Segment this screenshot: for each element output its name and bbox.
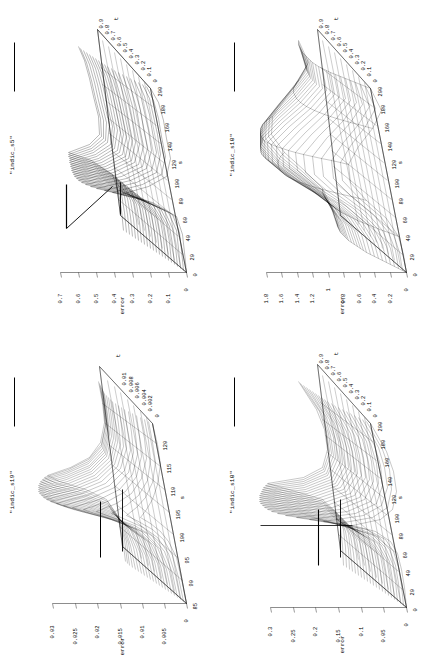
- x-tick: 0: [192, 273, 198, 276]
- z-tick: 1: [325, 288, 331, 291]
- x-tick: 115: [166, 463, 172, 473]
- ridge-highlight: [66, 182, 120, 228]
- y-tick: 0.4: [128, 48, 134, 58]
- y-tick: 0.3: [134, 54, 140, 64]
- plot-rotated-content: "indic_s10" error s t 0 0.2 0.4 0.6 0.8 …: [220, 0, 439, 334]
- x-tick: 80: [178, 198, 184, 204]
- z-tick: 0.005: [161, 628, 167, 644]
- y-tick: 0.2: [360, 395, 366, 405]
- x-tick: 20: [409, 589, 415, 595]
- x-tick: 120: [171, 159, 177, 169]
- x-tick: 200: [377, 421, 383, 431]
- plot-rotated-content: "indic_s10" error s t 0 0.05 0.1 0.15 0.…: [220, 335, 439, 669]
- y-tick: 0.9: [318, 353, 324, 363]
- z-tick: 0.03: [49, 625, 55, 638]
- z-tick: 1.8: [263, 293, 269, 303]
- x-tick: 180: [160, 104, 166, 114]
- y-tick: 0.01: [121, 372, 127, 385]
- plot-rotated-content: "indic_s19" error s t 0 0.005 0.01 0.015…: [0, 335, 219, 669]
- x-tick: 80: [398, 198, 404, 204]
- x-tick: 140: [167, 141, 173, 151]
- z-tick: 0.3: [267, 626, 273, 636]
- x-tick: 40: [405, 235, 411, 241]
- z-tick: 0: [183, 619, 189, 622]
- x-tick: 80: [398, 533, 404, 539]
- y-tick: 0.2: [360, 60, 366, 70]
- surface-wireframe: [259, 381, 406, 607]
- y-axis-label: t: [112, 16, 119, 20]
- y-tick: 0.1: [146, 66, 152, 76]
- plot-title: "indic_s10": [228, 470, 235, 513]
- z-tick: 0.4: [371, 293, 377, 303]
- y-tick: 0.9: [318, 18, 324, 28]
- x-axis-label: s: [178, 495, 185, 499]
- y-tick: 0.004: [141, 389, 147, 405]
- x-tick: 20: [409, 254, 415, 260]
- x-tick: 60: [402, 217, 408, 223]
- z-tick: 0.6: [75, 293, 81, 303]
- z-tick: 1.2: [309, 293, 315, 303]
- y-tick: 0.6: [336, 36, 342, 46]
- plot-title: "indic_s10": [228, 133, 235, 176]
- x-tick: 160: [384, 122, 390, 132]
- z-tick: 0.1: [165, 293, 171, 303]
- y-tick: 0: [154, 414, 160, 417]
- y-tick: 0.002: [147, 395, 153, 411]
- figure-canvas: "indic_s5" error s t 0 0.1 0.2 0.3 0.4 0…: [0, 0, 439, 669]
- x-tick: 95: [184, 557, 190, 563]
- z-tick: 0.025: [72, 628, 78, 644]
- y-tick: 0.5: [342, 42, 348, 52]
- x-tick: 180: [380, 439, 386, 449]
- z-axis-label: error: [118, 296, 125, 314]
- x-tick: 140: [387, 476, 393, 486]
- z-tick: 0.6: [356, 293, 362, 303]
- x-tick: 100: [394, 513, 400, 523]
- z-tick: 0.015: [117, 628, 123, 644]
- x-tick: 180: [380, 104, 386, 114]
- z-tick: 0.15: [335, 629, 341, 642]
- x-tick: 60: [402, 552, 408, 558]
- y-tick: 0.7: [110, 30, 116, 40]
- y-tick: 0.4: [348, 383, 354, 393]
- x-tick: 120: [391, 159, 397, 169]
- y-tick: 0: [372, 414, 378, 417]
- z-tick: 1.6: [278, 293, 284, 303]
- y-tick: 0.5: [122, 42, 128, 52]
- z-tick: 1.4: [294, 293, 300, 303]
- y-axis-label: t: [332, 16, 339, 20]
- x-tick: 90: [188, 580, 194, 586]
- x-tick: 20: [189, 254, 195, 260]
- y-tick: 0.5: [342, 377, 348, 387]
- x-tick: 200: [377, 86, 383, 96]
- y-tick: 0.1: [366, 66, 372, 76]
- x-tick: 0: [412, 273, 418, 276]
- x-tick: 120: [391, 494, 397, 504]
- y-tick: 0.6: [336, 371, 342, 381]
- z-axis-ticks: [60, 272, 187, 277]
- y-tick: 0.2: [140, 60, 146, 70]
- plot-panel-indic-s10-spike: "indic_s10" error s t 0 0.05 0.1 0.15 0.…: [220, 335, 439, 669]
- y-tick: 0.008: [128, 376, 134, 392]
- x-tick: 110: [170, 486, 176, 496]
- x-tick: 100: [394, 178, 400, 188]
- z-tick: 0.2: [147, 293, 153, 303]
- y-tick: 0: [152, 79, 158, 82]
- y-tick: 0.8: [324, 359, 330, 369]
- plot-frame: [266, 29, 406, 272]
- z-tick: 0: [403, 288, 409, 291]
- surface-plot-svg: [220, 335, 439, 669]
- y-tick: 0.6: [116, 36, 122, 46]
- y-tick: 0.4: [348, 48, 354, 58]
- surface-wireframe: [38, 381, 186, 603]
- surface-plot-svg: [0, 0, 219, 334]
- surface-plot-svg: [220, 0, 439, 334]
- plot-panel-indic-s19: "indic_s19" error s t 0 0.005 0.01 0.015…: [0, 335, 219, 669]
- plot-title: "indic_s5": [8, 135, 15, 174]
- z-tick: 0.05: [380, 629, 386, 642]
- x-tick: 160: [164, 122, 170, 132]
- plot-frame: [52, 366, 186, 603]
- x-tick: 140: [387, 141, 393, 151]
- x-tick: 0: [412, 608, 418, 611]
- plot-panel-indic-s5: "indic_s5" error s t 0 0.1 0.2 0.3 0.4 0…: [0, 0, 219, 334]
- y-tick: 0.3: [354, 54, 360, 64]
